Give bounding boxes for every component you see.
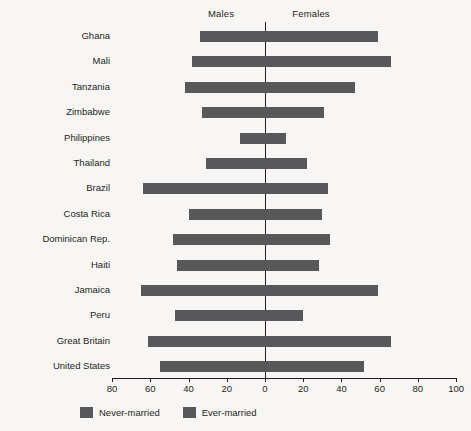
x-tick [341,378,342,382]
x-tick [150,378,151,382]
bar-thailand [206,158,307,169]
category-label-thailand: Thailand [5,157,110,168]
legend-item: Never-married [80,407,160,418]
x-tick-label: 60 [133,383,167,394]
x-axis-line [113,378,457,379]
females-column-header: Females [266,8,356,19]
x-tick-label: 40 [172,383,206,394]
x-tick-label: 0 [248,383,282,394]
bar-row: Thailand [113,151,457,176]
bar-row: Mali [113,49,457,74]
category-label-zimbabwe: Zimbabwe [5,106,110,117]
x-tick [227,378,228,382]
category-label-costa-rica: Costa Rica [5,208,110,219]
bar-haiti [177,260,318,271]
bar-brazil [143,183,328,194]
x-tick [112,378,113,382]
bar-row: Dominican Rep. [113,227,457,252]
bar-row: Ghana [113,24,457,49]
category-label-dominican-rep: Dominican Rep. [5,233,110,244]
x-tick-label: 80 [95,383,129,394]
plot-area: GhanaMaliTanzaniaZimbabwePhilippinesThai… [113,22,457,378]
chart-legend: Never-marriedEver-married [80,407,273,418]
x-tick-label: 20 [210,383,244,394]
x-tick [380,378,381,382]
x-tick-label: 100 [439,383,471,394]
bar-dominican-rep [173,234,330,245]
bar-row: Brazil [113,176,457,201]
x-tick-label: 40 [324,383,358,394]
x-tick [303,378,304,382]
bar-row: Costa Rica [113,202,457,227]
category-label-tanzania: Tanzania [5,81,110,92]
legend-item: Ever-married [183,407,257,418]
bar-ghana [200,31,378,42]
category-label-great-britain: Great Britain [5,335,110,346]
bar-row: Jamaica [113,278,457,303]
bar-zimbabwe [202,107,324,118]
x-tick [456,378,457,382]
x-tick-label: 80 [401,383,435,394]
x-tick-label: 20 [286,383,320,394]
legend-swatch-icon [183,407,196,418]
x-tick [189,378,190,382]
x-tick [418,378,419,382]
category-label-haiti: Haiti [5,259,110,270]
bar-peru [175,310,303,321]
category-label-brazil: Brazil [5,182,110,193]
bar-jamaica [141,285,378,296]
bar-great-britain [148,336,391,347]
category-label-united-states: United States [5,360,110,371]
category-label-peru: Peru [5,309,110,320]
bar-row: Great Britain [113,329,457,354]
population-pyramid-chart: Males Females GhanaMaliTanzaniaZimbabweP… [0,0,471,431]
legend-swatch-icon [80,407,93,418]
bar-row: Tanzania [113,75,457,100]
legend-label: Ever-married [202,407,257,418]
males-column-header: Males [176,8,266,19]
bar-costa-rica [189,209,323,220]
category-label-mali: Mali [5,55,110,66]
x-tick-label: 60 [363,383,397,394]
bar-row: Peru [113,303,457,328]
bar-united-states [160,361,364,372]
bar-tanzania [185,82,355,93]
category-label-philippines: Philippines [5,132,110,143]
category-label-ghana: Ghana [5,30,110,41]
x-tick [265,378,266,382]
legend-label: Never-married [99,407,160,418]
bar-mali [192,56,391,67]
bar-row: Zimbabwe [113,100,457,125]
bar-philippines [240,133,286,144]
category-label-jamaica: Jamaica [5,284,110,295]
bar-row: Haiti [113,253,457,278]
bar-row: Philippines [113,126,457,151]
bar-row: United States [113,354,457,379]
